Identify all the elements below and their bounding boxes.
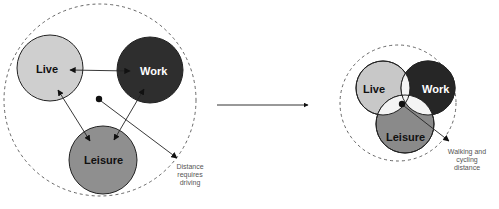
left-diagram: Live Work Leisure Distance requires driv…: [4, 4, 204, 196]
right-live-label: Live: [363, 83, 385, 95]
right-diagram: Live Work Leisure Walking and cycling di…: [340, 45, 486, 171]
right-note-line-1: Walking and: [448, 148, 486, 156]
right-note-line-2: cycling: [456, 156, 478, 164]
live-leisure-arrow: [58, 90, 90, 141]
left-note-line-3: driving: [180, 179, 201, 187]
left-note-line-1: Distance: [176, 163, 203, 170]
right-work-label: Work: [422, 83, 450, 95]
land-use-diagram: Live Work Leisure Distance requires driv…: [0, 0, 499, 209]
left-leisure-label: Leisure: [84, 154, 123, 166]
right-leisure-label: Leisure: [386, 131, 425, 143]
right-note-line-3: distance: [454, 164, 480, 171]
left-live-label: Live: [36, 63, 58, 75]
left-note-line-2: requires: [177, 171, 203, 179]
left-work-label: Work: [140, 65, 168, 77]
